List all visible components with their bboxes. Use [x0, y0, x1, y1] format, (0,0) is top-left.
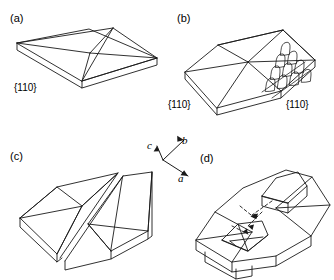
- panel-b-etch-pits: [262, 42, 311, 98]
- axis-label-a: a: [178, 172, 184, 184]
- axis-label-b: b: [182, 134, 188, 146]
- panel-a-crystal: [17, 28, 157, 88]
- panel-d-crystal: [196, 170, 330, 279]
- panel-label-b: (b): [177, 12, 190, 24]
- crystal-morphology-figure: (a) (b) (c) (d) {110} {110} {110} a b c: [0, 0, 334, 280]
- panel-label-a: (a): [10, 12, 23, 24]
- face-index-panel-a-110: {110}: [14, 82, 37, 93]
- figure-linework: [0, 0, 334, 280]
- panel-label-c: (c): [10, 150, 23, 162]
- face-index-panel-b-110-right: {110}: [286, 99, 309, 110]
- panel-label-d: (d): [200, 152, 213, 164]
- panel-c-crystal: [20, 172, 152, 270]
- face-index-panel-b-110-left: {110}: [168, 99, 191, 110]
- axis-label-c: c: [147, 139, 152, 151]
